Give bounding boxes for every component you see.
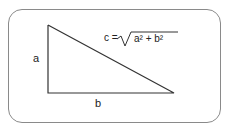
formula-lhs: c = xyxy=(104,32,118,43)
side-b-label: b xyxy=(95,97,101,109)
hypotenuse-formula: c = a² + b² xyxy=(104,32,118,43)
formula-radicand: a² + b² xyxy=(134,33,163,44)
side-a-label: a xyxy=(33,52,39,64)
triangle-svg xyxy=(0,0,226,129)
